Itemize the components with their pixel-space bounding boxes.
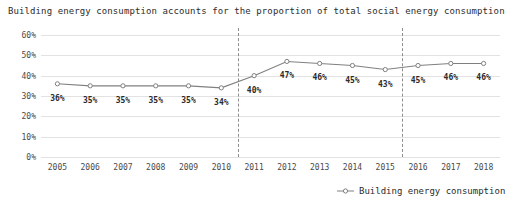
data-point-label: 47% [280, 71, 294, 80]
y-axis-tick-label: 50% [22, 51, 36, 60]
x-axis-tick-label: 2009 [179, 163, 198, 172]
data-point-label: 40% [247, 86, 261, 95]
y-axis-tick-label: 30% [22, 92, 36, 101]
x-axis-tick-label: 2015 [376, 163, 395, 172]
x-axis-tick-label: 2016 [408, 163, 427, 172]
gridline [41, 157, 500, 158]
chart-title: Building energy consumption accounts for… [8, 6, 505, 16]
data-point-label: 36% [50, 94, 64, 103]
x-axis-tick-label: 2014 [343, 163, 362, 172]
data-point-label: 46% [476, 73, 490, 82]
x-axis-tick-label: 2005 [48, 163, 67, 172]
data-point-label: 43% [378, 80, 392, 89]
data-point-label: 45% [345, 76, 359, 85]
x-axis-tick-label: 2008 [146, 163, 165, 172]
data-point-label: 35% [116, 96, 130, 105]
data-point-label: 34% [214, 98, 228, 107]
chart-container: Building energy consumption accounts for… [0, 0, 509, 214]
x-axis-tick-label: 2006 [81, 163, 100, 172]
y-axis-tick-label: 60% [22, 31, 36, 40]
y-axis-tick-label: 40% [22, 71, 36, 80]
x-axis-tick-label: 2010 [212, 163, 231, 172]
legend-label: Building energy consumption [359, 186, 505, 196]
y-axis: 60%50%40%30%20%10%0% [8, 35, 36, 157]
x-axis-tick-label: 2013 [310, 163, 329, 172]
x-axis: 2005200620072008200920102011201220132014… [41, 163, 500, 177]
data-point-label: 46% [444, 73, 458, 82]
x-axis-tick-label: 2007 [113, 163, 132, 172]
data-point-label: 35% [181, 96, 195, 105]
legend-marker-icon [337, 187, 354, 195]
y-axis-tick-label: 20% [22, 112, 36, 121]
legend: Building energy consumption [337, 186, 505, 196]
x-axis-tick-label: 2018 [474, 163, 493, 172]
x-axis-tick-label: 2012 [277, 163, 296, 172]
x-axis-tick-label: 2011 [244, 163, 263, 172]
y-axis-tick-label: 0% [26, 153, 36, 162]
data-point-label: 35% [149, 96, 163, 105]
data-point-label: 46% [312, 73, 326, 82]
data-labels: 36%35%35%35%35%34%40%47%46%45%43%45%46%4… [41, 35, 500, 157]
data-point-label: 45% [411, 76, 425, 85]
x-axis-tick-label: 2017 [441, 163, 460, 172]
data-point-label: 35% [83, 96, 97, 105]
y-axis-tick-label: 10% [22, 132, 36, 141]
